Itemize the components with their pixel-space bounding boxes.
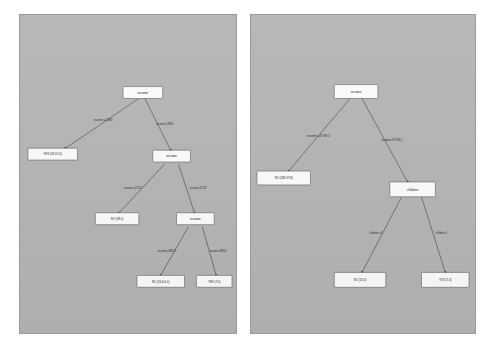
tree-node-label: YES (29.0/2.0) [43,152,62,156]
edge-label-n0-n1: income<=12880 [94,118,113,122]
decision-tree-comparison-view: income<=12880 income>12880 income<=27252… [0,0,492,354]
tree-canvas-left[interactable]: income<=12880 income>12880 income<=27252… [19,14,237,334]
tree-diagram-right: income<=47799.5 income>47799.5 children<… [251,15,475,333]
tree-node-label: NO (38.0) [111,217,124,221]
tree-node-split-children-right[interactable]: children [390,182,436,197]
tree-node-label: income [166,154,177,158]
edge-label-n2-n4: income>27252 [190,186,207,190]
tree-node-split-2-left[interactable]: income [153,150,191,162]
tree-node-leaf-yes-right[interactable]: YES (7.0) [421,272,469,287]
tree-node-leaf-no2-right[interactable]: NO (13.0) [334,272,386,287]
tree-node-label: YES (7.0) [439,278,451,282]
edge-label-m2-m3: children<=1 [369,231,383,235]
tree-node-leaf-no2-left[interactable]: NO (26.0/1.0) [137,275,185,287]
tree-node-split-4-left[interactable]: income [177,213,215,225]
edge-label-n2-n3: income<=27252 [124,186,143,190]
tree-node-root-right[interactable]: income [334,85,378,99]
tree-node-label: income [351,90,362,94]
tree-node-leaf-no-left[interactable]: NO (38.0) [95,213,139,225]
tree-node-label: income [190,217,201,221]
tree-node-leaf-yes-left[interactable]: YES (29.0/2.0) [28,148,78,160]
tree-node-leaf-no-right[interactable]: NO (288.97/0) [257,171,311,185]
tree-node-label: NO (13.0) [354,278,367,282]
edge-label-n0-n2: income>12880 [156,122,173,126]
edge-label-n4-n6: income>38812 [210,249,227,253]
edge-label-m0-m2: income>47799.5 [381,138,403,142]
tree-node-label: YES (7.0) [208,280,220,284]
tree-canvas-right[interactable]: income<=47799.5 income>47799.5 children<… [250,14,476,334]
tree-node-leaf-yes2-left[interactable]: YES (7.0) [196,275,232,287]
tree-node-label: NO (26.0/1.0) [152,280,169,284]
edge-label-m0-m1: income<=47799.5 [307,134,330,138]
tree-diagram-left: income<=12880 income>12880 income<=27252… [20,15,236,333]
edge-label-m2-m4: children>1 [435,231,448,235]
tree-node-label: NO (288.97/0) [275,176,293,180]
tree-node-label: children [407,188,419,192]
edge-line-n0-n1 [66,98,139,148]
edge-label-n4-n5: income<=38812 [157,249,176,253]
tree-node-root-left[interactable]: income [123,87,163,99]
tree-node-label: income [138,91,149,95]
